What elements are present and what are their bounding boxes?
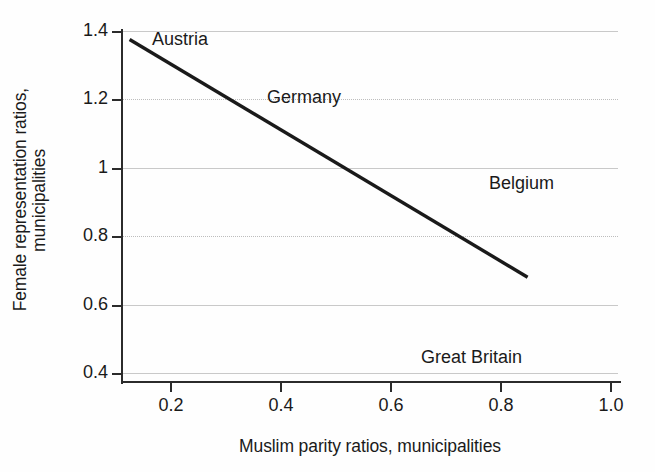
y-axis-line xyxy=(121,29,123,384)
y-tick-mark-0-6 xyxy=(112,305,122,307)
x-tick-label-0-6: 0.6 xyxy=(361,396,421,414)
y-axis-title: Female representation ratios, municipali… xyxy=(0,0,60,400)
y-tick-mark-1-2 xyxy=(112,99,122,101)
x-tick-mark-0-8 xyxy=(500,383,502,392)
chart-figure: Female representation ratios, municipali… xyxy=(0,0,655,472)
y-tick-mark-0-8 xyxy=(112,236,122,238)
y-tick-label-0-6: 0.6 xyxy=(62,295,108,313)
regression-line xyxy=(130,40,528,278)
x-axis-line xyxy=(121,381,621,383)
x-tick-mark-0-6 xyxy=(390,383,392,392)
annotation-belgium: Belgium xyxy=(489,174,554,192)
y-tick-label-0-4: 0.4 xyxy=(62,363,108,381)
y-axis-title-line-1: Female representation ratios, xyxy=(12,88,30,311)
x-tick-label-0-8: 0.8 xyxy=(471,396,531,414)
y-tick-label-1-4: 1.4 xyxy=(62,21,108,39)
x-tick-label-1-0: 1.0 xyxy=(581,396,641,414)
x-tick-mark-1-0 xyxy=(610,383,612,392)
y-tick-label-0-8: 0.8 xyxy=(62,226,108,244)
y-tick-mark-0-4 xyxy=(112,373,122,375)
y-axis-title-line-2: municipalities xyxy=(31,149,49,252)
y-tick-mark-1-0 xyxy=(112,168,122,170)
annotation-austria: Austria xyxy=(152,30,208,48)
x-tick-label-0-4: 0.4 xyxy=(251,396,311,414)
annotation-germany: Germany xyxy=(267,88,341,106)
x-tick-mark-0-2 xyxy=(170,383,172,392)
x-axis-title: Muslim parity ratios, municipalities xyxy=(122,436,618,457)
gridline-1-2 xyxy=(122,99,618,100)
y-tick-label-1-2: 1.2 xyxy=(62,89,108,107)
gridline-1-0 xyxy=(122,168,618,169)
x-tick-label-0-2: 0.2 xyxy=(141,396,201,414)
y-tick-label-1-0: 1 xyxy=(62,158,108,176)
gridline-0-6 xyxy=(122,305,618,306)
annotation-great-britain: Great Britain xyxy=(421,348,522,366)
x-tick-mark-0-4 xyxy=(280,383,282,392)
y-tick-mark-1-4 xyxy=(112,31,122,33)
gridline-0-4 xyxy=(122,373,618,374)
gridline-0-8 xyxy=(122,236,618,237)
